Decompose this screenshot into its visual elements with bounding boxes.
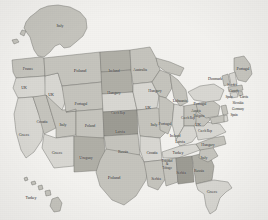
state-shape-WA xyxy=(12,57,45,78)
state-shape-CT xyxy=(230,92,238,98)
map-geometry xyxy=(0,0,268,220)
state-shape-ND xyxy=(100,50,131,72)
state-shape-NE xyxy=(102,92,137,112)
state-shape-SD xyxy=(101,70,133,94)
state-shape-AL xyxy=(176,156,194,184)
state-shape-AR xyxy=(140,136,162,162)
state-shape-OR xyxy=(13,76,46,98)
state-shape-WY xyxy=(62,82,103,112)
state-shape-RI xyxy=(238,91,243,96)
state-shape-KS xyxy=(103,110,138,136)
us-country-label-map: ItalyTurkeyFranceUKUKPolandIcelandAustra… xyxy=(0,0,268,220)
